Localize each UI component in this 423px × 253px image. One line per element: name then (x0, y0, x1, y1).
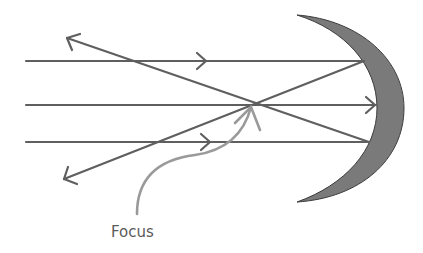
focus-label: Focus (111, 223, 154, 241)
concave-mirror (297, 15, 404, 202)
reflected-ray-bottom (67, 38, 369, 142)
reflected-ray-top (64, 61, 364, 179)
concave-mirror-diagram (0, 0, 423, 253)
